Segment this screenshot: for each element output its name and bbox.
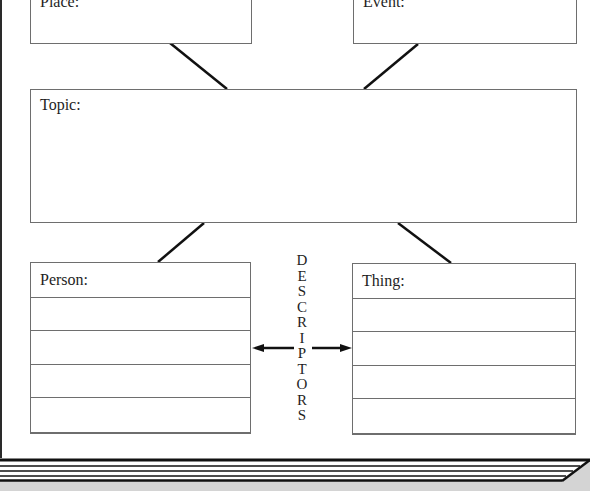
thing-row-divider — [353, 398, 575, 399]
thing-label: Thing: — [362, 272, 405, 290]
descriptor-letter: I — [292, 331, 312, 347]
topic-thing-connector — [398, 223, 451, 263]
person-box: Person: — [30, 262, 251, 434]
descriptor-letter: P — [292, 346, 312, 362]
event-topic-connector — [364, 44, 418, 89]
left-arrow-head — [252, 344, 264, 352]
thing-box: Thing: — [352, 263, 576, 435]
person-row-divider — [31, 330, 250, 331]
descriptor-letter: D — [292, 253, 312, 269]
topic-label: Topic: — [40, 96, 81, 114]
descriptor-letter: O — [292, 377, 312, 393]
person-row-divider — [31, 364, 250, 365]
topic-person-connector — [158, 223, 204, 262]
descriptor-letter: T — [292, 362, 312, 378]
person-row-divider — [31, 397, 250, 398]
place-topic-connector — [170, 43, 227, 89]
page-left-edge — [0, 0, 2, 458]
descriptor-letter: E — [292, 269, 312, 285]
footer-slant-edge — [562, 460, 590, 481]
thing-row-divider — [353, 298, 575, 299]
right-arrow-head — [340, 344, 352, 352]
person-row-divider — [31, 297, 250, 298]
descriptor-letter: R — [292, 315, 312, 331]
descriptor-letter: C — [292, 300, 312, 316]
descriptors-vertical-text: D E S C R I P T O R S — [292, 253, 312, 424]
event-label: Event: — [363, 0, 405, 11]
descriptor-letter: S — [292, 284, 312, 300]
descriptor-letter: S — [292, 408, 312, 424]
person-label: Person: — [40, 271, 88, 289]
thing-row-divider — [353, 365, 575, 366]
footer-pages — [0, 458, 590, 481]
thing-row-divider — [353, 331, 575, 332]
place-box[interactable]: Place: — [30, 0, 252, 44]
topic-box[interactable]: Topic: — [30, 89, 577, 223]
descriptor-letter: R — [292, 393, 312, 409]
footer-shade — [0, 461, 590, 491]
event-box[interactable]: Event: — [353, 0, 577, 44]
place-label: Place: — [40, 0, 79, 11]
